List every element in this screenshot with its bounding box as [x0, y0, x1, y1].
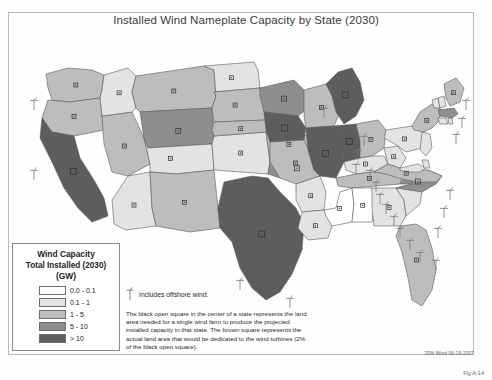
legend-row: 1 - 5 — [39, 309, 115, 320]
legend-swatch — [39, 334, 66, 343]
turbine-land-square-wi — [321, 107, 322, 108]
turbine-land-square-fl — [416, 259, 417, 260]
turbine-land-square-ar — [310, 195, 311, 196]
turbine-land-square-ms — [339, 208, 340, 209]
turbine-land-square-wa — [75, 84, 76, 85]
turbine-land-square-co — [240, 152, 241, 153]
turbine-land-square-nd — [231, 77, 232, 78]
legend-label: 5 - 10 — [70, 323, 88, 330]
offshore-turbine-marker — [462, 97, 470, 110]
turbine-land-square-al — [362, 205, 363, 206]
turbine-land-square-ne — [240, 128, 241, 129]
turbine-land-square-ky — [365, 163, 366, 164]
legend-label: > 10 — [70, 335, 84, 342]
legend-swatch — [39, 286, 66, 295]
state-fl — [396, 224, 436, 306]
legend-title-line2: Total Installed (2030) — [17, 260, 115, 271]
legend-swatch — [39, 322, 66, 331]
offshore-turbine-marker — [434, 225, 442, 238]
state-nj — [420, 132, 432, 156]
turbine-land-square-nc — [417, 181, 418, 182]
legend-label: 0.0 - 0.1 — [70, 287, 96, 294]
turbine-land-square-ok — [296, 168, 297, 169]
turbine-land-square-ca — [73, 171, 74, 172]
offshore-turbine-marker — [446, 187, 454, 200]
offshore-turbine-marker — [458, 115, 466, 128]
turbine-land-square-tx — [261, 233, 262, 234]
state-nm — [150, 170, 220, 232]
turbine-land-square-mi — [345, 94, 346, 95]
turbine-land-square-wv — [393, 156, 394, 157]
legend-class-list: 0.0 - 0.10.1 - 11 - 55 - 10> 10 — [17, 285, 115, 344]
state-md — [400, 164, 426, 172]
state-ms — [324, 188, 354, 226]
turbine-land-square-mn — [283, 98, 284, 99]
state-ia — [264, 112, 306, 142]
turbine-land-square-mo — [295, 162, 296, 163]
offshore-note-text: Includes offshore wind. — [139, 291, 208, 298]
turbine-land-square-az — [133, 204, 134, 205]
turbine-land-square-nm — [184, 202, 185, 203]
state-ct — [438, 118, 448, 124]
source-note: 20% Wind 06-19-2007 — [424, 351, 474, 356]
turbine-land-square-me — [453, 92, 454, 93]
offshore-turbine-marker — [30, 97, 38, 110]
offshore-turbine-marker — [286, 295, 294, 308]
state-id — [100, 68, 136, 116]
state-az — [112, 172, 156, 230]
offshore-turbine-marker — [452, 131, 460, 144]
wind-turbine-icon — [126, 287, 134, 301]
turbine-land-square-sd — [234, 104, 235, 105]
figure-page: Installed Wind Nameplate Capacity by Sta… — [0, 0, 492, 380]
turbine-land-square-ks — [288, 144, 289, 145]
state-wa — [46, 68, 104, 102]
legend-row: 0.0 - 0.1 — [39, 285, 115, 296]
legend-label: 1 - 5 — [70, 311, 84, 318]
turbine-land-square-ny — [426, 120, 427, 121]
turbine-land-square-wy — [178, 130, 179, 131]
figure-number: Fig A-14 — [463, 370, 484, 376]
turbine-land-square-la — [315, 225, 316, 226]
state-or — [42, 98, 104, 136]
legend-row: 5 - 10 — [39, 321, 115, 332]
turbine-land-square-va — [406, 173, 407, 174]
state-wy — [140, 108, 214, 148]
turbine-land-square-ga — [388, 207, 389, 208]
state-ma — [438, 108, 458, 118]
legend-label: 0.1 - 1 — [70, 299, 90, 306]
turbine-land-square-nv — [124, 145, 125, 146]
turbine-land-square-mt — [173, 90, 174, 91]
turbine-land-square-id — [118, 92, 119, 93]
turbine-land-square-in — [349, 141, 350, 142]
legend-swatch — [39, 298, 66, 307]
turbine-land-square-pa — [404, 138, 405, 139]
state-ri — [448, 118, 453, 124]
turbine-land-square-oh — [370, 139, 371, 140]
legend-row: > 10 — [39, 333, 115, 344]
turbine-land-square-ia — [284, 127, 285, 128]
legend-title-line3: (GW) — [17, 271, 115, 282]
legend-swatch — [39, 310, 66, 319]
square-explanation-note: The black open square in the center of a… — [126, 310, 308, 351]
offshore-turbine-marker — [440, 205, 448, 218]
offshore-wind-note: Includes offshore wind. — [126, 287, 208, 301]
turbine-land-square-or — [73, 116, 74, 117]
map-legend: Wind Capacity Total Installed (2030) (GW… — [12, 243, 120, 351]
offshore-turbine-marker — [30, 167, 38, 180]
offshore-turbine-marker — [236, 277, 244, 290]
state-sd — [212, 88, 266, 122]
legend-row: 0.1 - 1 — [39, 297, 115, 308]
legend-title-line1: Wind Capacity — [17, 249, 115, 260]
state-tx — [218, 176, 304, 300]
turbine-land-square-il — [325, 153, 326, 154]
turbine-land-square-ut — [170, 158, 171, 159]
